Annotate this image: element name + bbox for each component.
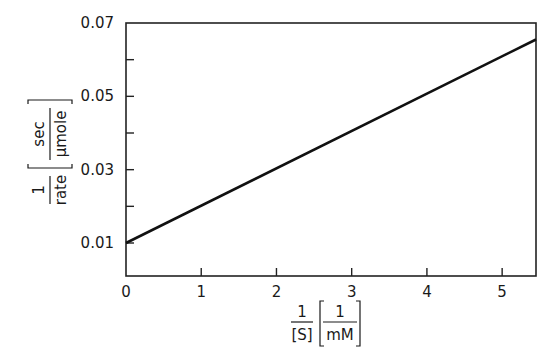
x-label-numerator: 1: [297, 303, 307, 321]
y-tick-label: 0.07: [81, 14, 114, 32]
x-tick-label: 4: [422, 283, 432, 301]
y-tick-label: 0.05: [81, 87, 114, 105]
y-axis-label: 1 rate sec µmole: [28, 100, 72, 205]
x-label-unit-denominator: mM: [326, 326, 354, 344]
data-series: [126, 40, 536, 244]
y-tick-label: 0.01: [81, 234, 114, 252]
x-tick-label: 0: [121, 283, 131, 301]
x-tick-label: 1: [196, 283, 206, 301]
x-tick-label: 5: [497, 283, 507, 301]
x-axis-ticks: 012345: [121, 268, 507, 301]
y-label-numerator: 1: [30, 185, 48, 195]
y-label-unit-numerator: sec: [30, 121, 48, 146]
lineweaver-burk-chart: 0.010.030.050.07 012345 1 rate sec µmole…: [0, 0, 558, 363]
y-label-denominator: rate: [52, 175, 70, 205]
x-axis-label: 1 [S] 1 mM: [291, 301, 360, 346]
y-label-unit-denominator: µmole: [52, 111, 70, 158]
series-line: [126, 40, 536, 244]
x-tick-label: 3: [347, 283, 357, 301]
x-label-denominator: [S]: [291, 326, 312, 344]
x-tick-label: 2: [272, 283, 282, 301]
y-tick-label: 0.03: [81, 161, 114, 179]
plot-area-frame: [126, 23, 536, 276]
x-label-unit-numerator: 1: [335, 303, 345, 321]
